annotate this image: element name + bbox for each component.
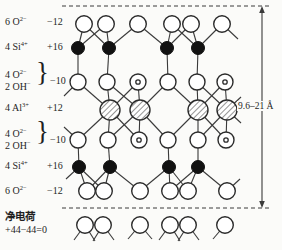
hydroxyl-dot [137,138,141,142]
ion-charge: +16 [47,41,63,53]
atom-si [104,161,117,174]
atom-si [163,161,176,174]
brace: } [36,125,49,137]
ion-charge: −12 [47,16,63,28]
hydroxyl-dot [136,80,140,84]
clay-mineral-layer-diagram: 6 O2− −12 4 Si4+ +16 4 O2− 2 OH− } −10 4… [0,0,282,250]
atom-si [192,42,205,55]
ion-label-row-braced: 4 O2− 2 OH− } −10 [5,128,31,152]
ion-formula: 4 O2− 2 OH− [5,128,31,152]
atom-o [99,74,115,90]
atom-o [162,183,179,200]
dimension-arrowhead-down [259,201,265,208]
atom-o [96,183,113,200]
net-charge-title: 净电荷 [5,210,47,223]
atom-o [190,132,206,148]
hydroxyl-dot [224,138,228,142]
dimension-label: 9.6–21 Å [237,101,274,111]
atom-o [219,183,236,200]
atom-al [217,100,237,120]
brace: } [36,66,49,78]
atom-o [77,217,94,234]
atom-o [162,217,179,234]
atom-o [160,132,176,148]
atom-o [183,16,200,33]
atom-o [160,74,176,90]
atom-o [70,74,86,90]
atom-o [130,16,147,33]
ion-formula: 4 Si4+ [5,160,28,171]
atom-si [103,42,116,55]
atom-o [214,16,231,33]
atom-o [79,183,96,200]
ion-charge: +12 [47,102,63,114]
ion-formula: 6 O2− [5,185,27,196]
ion-formula: 4 Si4+ [5,41,28,52]
ion-formula: 4 Al3+ [5,102,29,113]
ion-label-row: 6 O2− −12 [5,185,27,197]
ion-charge: +16 [47,160,63,172]
ion-formula: 4 O2− 2 OH− [5,69,31,93]
atom-o [164,16,181,33]
atom-o [98,16,115,33]
atom-o [70,132,86,148]
atom-o [95,217,112,234]
dimension-arrowhead-up [259,6,265,13]
ion-formula: 6 O2− [5,16,27,27]
atom-si [72,42,85,55]
net-charge-equation: +44−44=0 [5,223,47,236]
ion-charge: −12 [47,185,63,197]
atom-o [100,132,116,148]
atom-si [192,161,205,174]
atom-al [100,100,120,120]
atom-o [76,16,93,33]
atom-si [161,42,174,55]
ion-label-row: 4 Si4+ +16 [5,160,28,172]
atom-o [217,217,234,234]
ion-label-row: 4 Si4+ +16 [5,41,28,53]
atom-al [130,100,150,120]
ion-label-row: 4 Al3+ +12 [5,102,29,114]
hydroxyl-dot [223,80,227,84]
atom-o [180,183,197,200]
atom-al [188,100,208,120]
atom-o [189,74,205,90]
atom-si [73,161,86,174]
ion-label-row: 6 O2− −12 [5,16,27,28]
atom-o [132,183,149,200]
ion-charge: −10 [50,75,66,87]
ion-charge: −10 [50,134,66,146]
net-charge-block: 净电荷 +44−44=0 [5,210,47,236]
ion-label-row-braced: 4 O2− 2 OH− } −10 [5,69,31,93]
atom-o [132,217,149,234]
atom-o [180,217,197,234]
